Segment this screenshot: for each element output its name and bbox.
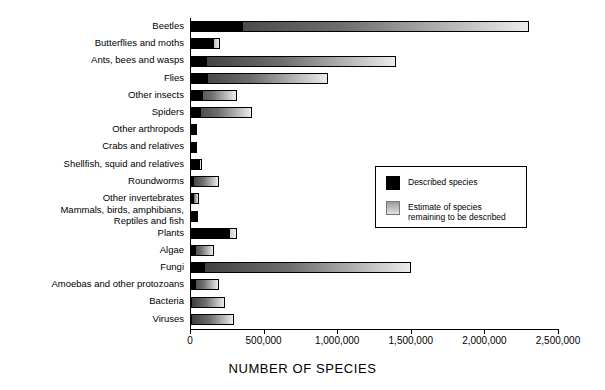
category-label: Amoebas and other protozoans — [51, 279, 184, 290]
category-label: Spiders — [152, 107, 184, 118]
category-label: Beetles — [152, 21, 184, 32]
category-label: Viruses — [152, 314, 184, 325]
category-label: Butterflies and moths — [95, 38, 184, 49]
category-label: Other insects — [128, 90, 184, 101]
axis-tick-label: 2,000,000 — [462, 335, 507, 346]
axis-tick — [190, 329, 191, 334]
bar-plants — [190, 228, 237, 239]
bar-described-segment — [190, 90, 203, 101]
axis-tick-label: 500,000 — [246, 335, 282, 346]
value-axis-line — [190, 329, 559, 330]
category-label: Bacteria — [149, 296, 184, 307]
bar-described-segment — [190, 159, 200, 170]
category-axis-labels: BeetlesButterflies and mothsAnts, bees a… — [0, 18, 184, 328]
species-bar-chart: BeetlesButterflies and mothsAnts, bees a… — [0, 0, 605, 390]
bar-crabs-and-relatives — [190, 142, 197, 153]
category-label: Crabs and relatives — [102, 141, 184, 152]
category-label: Roundworms — [128, 176, 184, 187]
bar-estimate-segment — [190, 262, 411, 273]
category-label: Fungi — [160, 262, 184, 273]
bar-other-insects — [190, 90, 237, 101]
axis-tick-label: 1,500,000 — [389, 335, 434, 346]
bar-algae — [190, 245, 214, 256]
bar-amoebas-and-other-protozoans — [190, 279, 219, 290]
bar-viruses — [190, 314, 234, 325]
x-axis-title: NUMBER OF SPECIES — [0, 361, 605, 376]
bar-bacteria — [190, 297, 225, 308]
bar-mammals-birds-amphibians-reptiles-and-fish — [190, 211, 198, 222]
axis-tick-label: 2,500,000 — [536, 335, 581, 346]
bar-estimate-segment — [190, 297, 225, 308]
legend-label-estimate: Estimate of species remaining to be desc… — [408, 201, 506, 222]
axis-tick — [337, 329, 338, 334]
axis-tick — [411, 329, 412, 334]
bar-butterflies-and-moths — [190, 38, 220, 49]
category-label: Other arthropods — [112, 124, 184, 135]
category-axis-line — [190, 18, 191, 330]
category-label: Flies — [164, 73, 184, 84]
legend-label-described: Described species — [408, 176, 477, 187]
bar-estimate-segment — [190, 176, 219, 187]
bar-spiders — [190, 107, 252, 118]
bar-described-segment — [190, 56, 207, 67]
axis-tick-label: 0 — [187, 335, 193, 346]
category-label: Shellfish, squid and relatives — [64, 159, 184, 170]
bar-described-segment — [190, 107, 201, 118]
bar-shellfish-squid-and-relatives — [190, 159, 202, 170]
axis-tick-label: 1,000,000 — [315, 335, 360, 346]
legend-item-estimate: Estimate of species remaining to be desc… — [386, 201, 506, 222]
legend-item-described: Described species — [386, 176, 477, 190]
bar-fungi — [190, 262, 411, 273]
category-label: Plants — [158, 228, 184, 239]
bar-described-segment — [190, 21, 243, 32]
legend-swatch-estimate-icon — [386, 201, 400, 215]
axis-tick — [558, 329, 559, 334]
bar-estimate-segment — [190, 314, 234, 325]
bar-estimate-segment — [190, 56, 396, 67]
bar-roundworms — [190, 176, 219, 187]
bar-ants-bees-and-wasps — [190, 56, 396, 67]
chart-legend: Described species Estimate of species re… — [375, 166, 527, 228]
category-label: Ants, bees and wasps — [91, 55, 184, 66]
bar-other-arthropods — [190, 124, 197, 135]
bar-flies — [190, 73, 328, 84]
category-label: Mammals, birds, amphibians, Reptiles and… — [60, 205, 184, 226]
bar-described-segment — [190, 262, 205, 273]
bar-beetles — [190, 21, 529, 32]
axis-tick — [264, 329, 265, 334]
bar-estimate-segment — [190, 73, 328, 84]
category-label: Algae — [160, 245, 184, 256]
axis-tick — [484, 329, 485, 334]
category-label: Other invertebrates — [103, 193, 184, 204]
bar-described-segment — [190, 228, 230, 239]
bar-described-segment — [190, 211, 197, 222]
legend-swatch-described-icon — [386, 176, 400, 190]
bar-other-invertebrates — [190, 193, 199, 204]
bar-described-segment — [190, 73, 208, 84]
bar-described-segment — [190, 38, 214, 49]
